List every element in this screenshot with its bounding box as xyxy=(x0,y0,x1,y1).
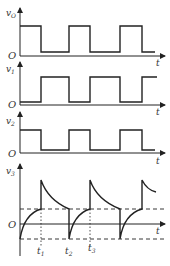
label-v2: v2 xyxy=(6,116,15,127)
t-axis-label: t xyxy=(156,58,160,68)
origin-label: O xyxy=(8,148,16,159)
waveform-v2 xyxy=(20,130,155,150)
t3-label: t3 xyxy=(88,243,96,254)
panel-v3: v3 O t t1 t2 t3 xyxy=(6,164,165,257)
t-axis-label: t xyxy=(156,226,160,236)
panel-v2: v2 O t xyxy=(6,112,165,166)
origin-label: O xyxy=(8,99,16,110)
label-v3: v3 xyxy=(6,166,15,177)
t-axis-label: t xyxy=(156,107,160,117)
t1-label: t1 xyxy=(37,246,44,257)
panel-vo: vO O t xyxy=(6,8,165,68)
waveform-v3 xyxy=(20,180,156,239)
origin-label: O xyxy=(8,50,16,61)
label-v1: v1 xyxy=(6,64,15,75)
origin-label: O xyxy=(8,219,16,230)
waveform-v1 xyxy=(20,77,157,102)
label-vo: vO xyxy=(6,8,16,19)
t-axis-label: t xyxy=(156,156,160,166)
waveform-diagram: vO O t v1 O t v2 O t v3 O t t1 t2 xyxy=(0,0,170,266)
panel-v1: v1 O t xyxy=(6,62,165,117)
t2-label: t2 xyxy=(65,246,73,257)
waveform-vo xyxy=(20,26,155,52)
